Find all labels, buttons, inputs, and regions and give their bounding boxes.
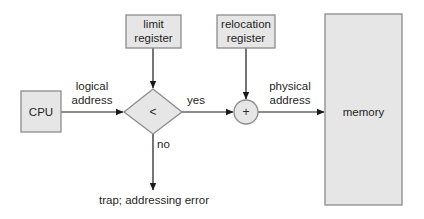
cpu-node: CPU	[21, 91, 61, 132]
yes-label: yes	[187, 94, 205, 106]
relocation-register-label-line2: register	[227, 32, 266, 44]
relocation-limit-diagram: CPU limit register relocation register <…	[0, 0, 424, 219]
physical-address-label-line1: physical	[269, 80, 311, 92]
limit-register-label-line2: register	[134, 32, 173, 44]
relocation-register-node: relocation register	[217, 15, 275, 48]
cpu-label: CPU	[29, 106, 53, 118]
no-label: no	[157, 138, 170, 150]
physical-address-label-line2: address	[270, 94, 311, 106]
less-than-symbol: <	[149, 105, 156, 119]
trap-addressing-error-label: trap; addressing error	[99, 194, 209, 206]
adder-circle: +	[234, 100, 258, 124]
limit-register-node: limit register	[126, 15, 181, 48]
comparator-diamond: <	[124, 89, 182, 134]
logical-address-label-line2: address	[72, 94, 113, 106]
memory-label: memory	[343, 106, 385, 118]
memory-node: memory	[325, 14, 402, 205]
limit-register-label-line1: limit	[143, 18, 164, 30]
plus-symbol: +	[242, 105, 249, 119]
relocation-register-label-line1: relocation	[221, 18, 271, 30]
logical-address-label-line1: logical	[76, 80, 109, 92]
